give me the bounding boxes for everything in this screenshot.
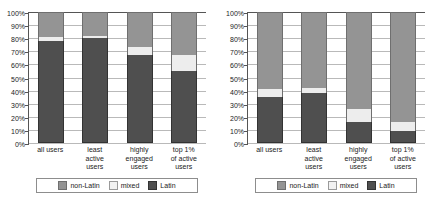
legend-item-mixed: mixed	[109, 181, 140, 190]
x-axis-label-line: users	[336, 163, 381, 172]
y-axis-tick-label: 40%	[230, 88, 244, 95]
legend-swatch-non-latin	[58, 181, 67, 190]
y-axis-tick-label: 90%	[11, 23, 25, 30]
x-axis-label-line: users	[292, 163, 337, 172]
y-axis-tick-label: 50%	[11, 75, 25, 82]
stacked-bar[interactable]	[38, 12, 64, 143]
bar-segment-mixed[interactable]	[390, 122, 416, 131]
bar-segment-non-latin[interactable]	[257, 12, 283, 89]
stacked-bar[interactable]	[301, 12, 327, 143]
bar-slot	[118, 12, 162, 143]
y-tick-mark	[244, 144, 248, 145]
stacked-bar[interactable]	[82, 12, 108, 143]
x-axis-label-line: top 1%	[162, 146, 207, 155]
y-axis-tick-label: 0%	[15, 141, 25, 148]
bar-segment-non-latin[interactable]	[301, 12, 327, 88]
y-axis-tick-label: 40%	[11, 88, 25, 95]
stacked-bar[interactable]	[171, 12, 197, 143]
y-axis-tick-label: 30%	[11, 101, 25, 108]
x-axis-label-line: active	[292, 155, 337, 164]
x-axis-label-line: highly	[117, 146, 162, 155]
bar-segment-latin[interactable]	[390, 131, 416, 143]
legend-label-mixed: mixed	[121, 182, 140, 189]
y-axis-tick-label: 60%	[11, 62, 25, 69]
y-axis-tick-label: 60%	[230, 62, 244, 69]
bar-segment-non-latin[interactable]	[82, 12, 108, 36]
y-axis-tick-label: 50%	[230, 75, 244, 82]
x-axis-label-line: top 1%	[381, 146, 426, 155]
bar-segment-mixed[interactable]	[346, 109, 372, 122]
y-axis-tick-label: 90%	[230, 23, 244, 30]
bar-segment-latin[interactable]	[346, 122, 372, 143]
chart-pair: 100%90%80%70%60%50%40%30%20%10%0% all us…	[0, 0, 438, 204]
y-axis-tick-label: 30%	[230, 101, 244, 108]
bar-segment-latin[interactable]	[127, 55, 153, 143]
x-axis-label-line: of active	[381, 155, 426, 164]
bar-segment-latin[interactable]	[171, 71, 197, 143]
x-axis-label-line: of active	[162, 155, 207, 164]
legend-item-latin: Latin	[367, 181, 394, 190]
legend-swatch-non-latin	[277, 181, 286, 190]
x-axis-tick-label: leastactiveusers	[292, 146, 337, 172]
y-axis-tick-label: 20%	[230, 114, 244, 121]
bar-segment-non-latin[interactable]	[127, 12, 153, 47]
legend-label-latin: Latin	[160, 182, 175, 189]
x-axis-label-line: users	[381, 163, 426, 172]
y-axis-tick-label: 80%	[230, 36, 244, 43]
y-tick-mark	[25, 144, 29, 145]
plot-left: 100%90%80%70%60%50%40%30%20%10%0%	[28, 12, 206, 144]
gridline: 0%	[248, 143, 425, 144]
bar-segment-non-latin[interactable]	[171, 12, 197, 55]
x-axis-label-line: all users	[247, 146, 292, 155]
bar-segment-mixed[interactable]	[127, 47, 153, 55]
x-axis-label-line: users	[162, 163, 207, 172]
plot-area-left: 100%90%80%70%60%50%40%30%20%10%0%	[28, 12, 206, 144]
bar-slot	[29, 12, 73, 143]
y-axis-tick-label: 70%	[230, 49, 244, 56]
stacked-bar[interactable]	[390, 12, 416, 143]
bar-segment-non-latin[interactable]	[346, 12, 372, 109]
bar-segment-non-latin[interactable]	[390, 12, 416, 122]
bar-segment-non-latin[interactable]	[38, 12, 64, 37]
stacked-bar[interactable]	[127, 12, 153, 143]
legend-label-non-latin: non-Latin	[70, 182, 99, 189]
x-axis-labels-left: all usersleastactiveusershighlyengagedus…	[28, 146, 206, 172]
x-axis-label-line: all users	[28, 146, 73, 155]
plot-area-right: 100%90%80%70%60%50%40%30%20%10%0%	[247, 12, 425, 144]
bar-segment-latin[interactable]	[38, 41, 64, 143]
y-axis-tick-label: 20%	[11, 114, 25, 121]
stacked-bar[interactable]	[346, 12, 372, 143]
x-axis-label-line: users	[73, 163, 118, 172]
bar-slot	[292, 12, 336, 143]
x-axis-tick-label: highlyengagedusers	[336, 146, 381, 172]
x-axis-tick-label: top 1%of activeusers	[381, 146, 426, 172]
x-axis-tick-label: all users	[247, 146, 292, 172]
legend-swatch-latin	[367, 181, 376, 190]
legend-label-non-latin: non-Latin	[289, 182, 318, 189]
y-axis-tick-label: 10%	[230, 127, 244, 134]
gridline: 0%	[29, 143, 206, 144]
x-axis-label-line: least	[292, 146, 337, 155]
x-axis-tick-label: all users	[28, 146, 73, 172]
bar-segment-mixed[interactable]	[171, 55, 197, 71]
y-axis-tick-label: 100%	[226, 10, 244, 17]
bar-segment-mixed[interactable]	[257, 89, 283, 97]
x-axis-label-line: active	[73, 155, 118, 164]
y-axis-tick-label: 80%	[11, 36, 25, 43]
y-axis-tick-label: 70%	[11, 49, 25, 56]
bar-segment-latin[interactable]	[301, 93, 327, 143]
y-axis-tick-label: 0%	[234, 141, 244, 148]
legend-swatch-mixed	[109, 181, 118, 190]
stacked-bar[interactable]	[257, 12, 283, 143]
x-axis-label-line: users	[117, 163, 162, 172]
legend-item-mixed: mixed	[328, 181, 359, 190]
y-axis-tick-label: 100%	[7, 10, 25, 17]
legend-label-mixed: mixed	[340, 182, 359, 189]
x-axis-label-line: engaged	[336, 155, 381, 164]
y-axis-tick-label: 10%	[11, 127, 25, 134]
bar-segment-latin[interactable]	[82, 38, 108, 143]
legend-left: non-Latin mixed Latin	[36, 178, 198, 193]
bar-slot	[381, 12, 425, 143]
bar-segment-latin[interactable]	[257, 97, 283, 143]
legend-swatch-latin	[148, 181, 157, 190]
